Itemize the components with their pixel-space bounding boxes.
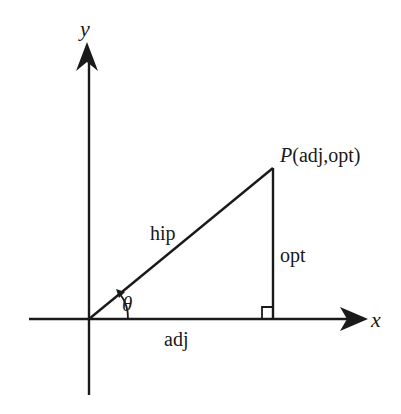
opposite-label: opt <box>280 244 306 267</box>
hypotenuse-line <box>89 168 273 319</box>
point-name: P <box>279 144 292 166</box>
angle-label: θ <box>122 292 132 316</box>
x-axis-label: x <box>370 307 381 332</box>
y-axis-label: y <box>78 16 90 41</box>
triangle-diagram: y x P(adj,opt) hip opt adj θ <box>0 0 401 414</box>
point-coords: (adj,opt) <box>292 144 360 167</box>
point-label: P(adj,opt) <box>279 144 361 167</box>
adjacent-label: adj <box>164 328 188 351</box>
y-axis-arrowhead-icon <box>76 42 98 71</box>
hypotenuse-label: hip <box>150 222 176 245</box>
right-angle-marker <box>262 307 273 319</box>
